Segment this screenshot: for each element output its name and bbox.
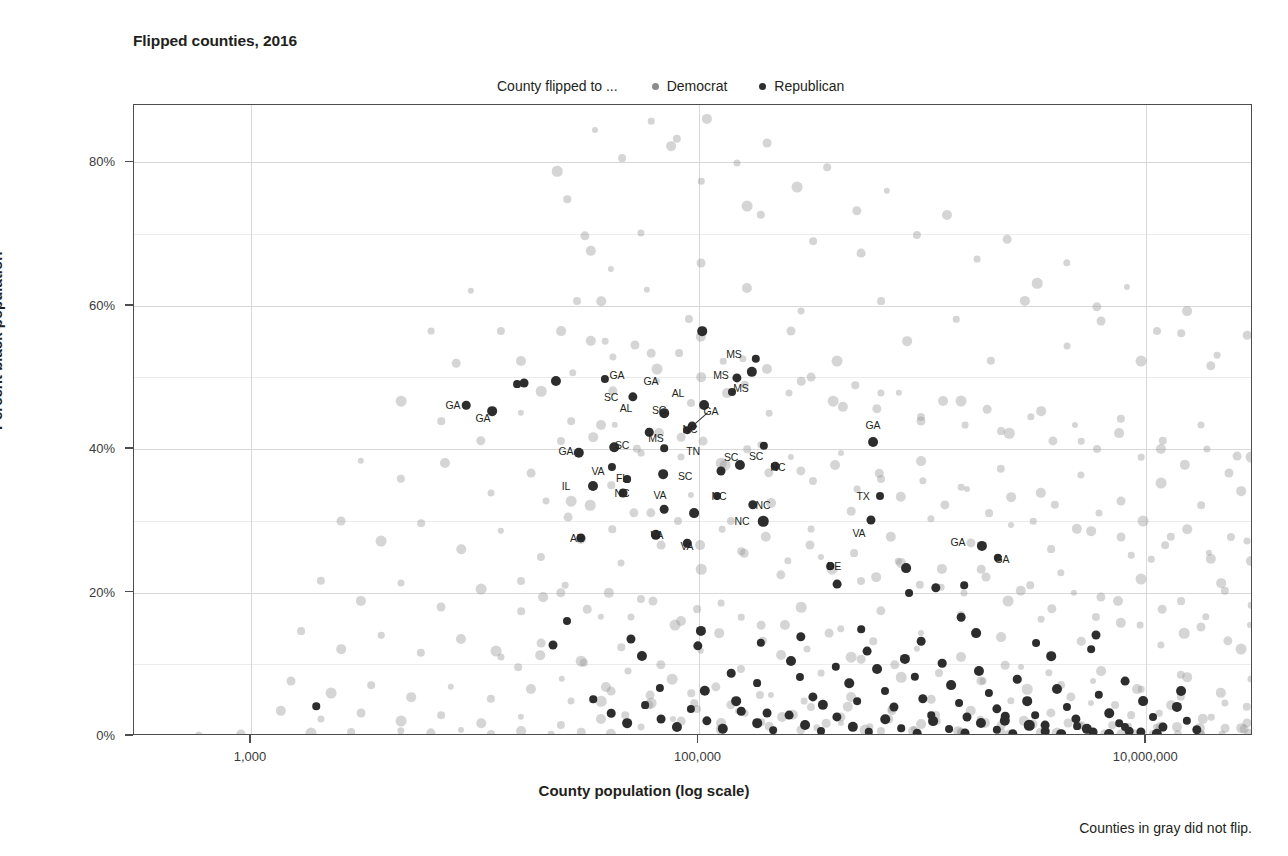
data-point	[678, 454, 685, 461]
data-point	[1172, 702, 1182, 712]
data-point	[644, 287, 650, 293]
legend-entry-republican[interactable]: Republican	[759, 78, 844, 94]
point-label-va: VA	[853, 527, 866, 539]
data-point	[780, 620, 790, 630]
y-tick-label: 0%	[63, 728, 115, 743]
data-point	[1137, 622, 1144, 629]
data-point	[1156, 444, 1166, 454]
data-point	[1038, 616, 1045, 623]
data-point	[1003, 235, 1012, 244]
data-point	[1072, 422, 1078, 428]
data-point	[1156, 478, 1167, 489]
data-point	[963, 713, 972, 722]
data-point	[702, 716, 711, 725]
data-point	[1182, 306, 1192, 316]
y-tick-label: 80%	[63, 154, 115, 169]
data-point	[517, 577, 525, 585]
data-point	[627, 613, 634, 620]
data-point	[497, 327, 505, 335]
data-point	[844, 678, 854, 688]
data-point	[937, 564, 947, 574]
data-point	[1152, 729, 1162, 734]
data-point	[1244, 729, 1251, 734]
data-point	[586, 336, 596, 346]
data-point	[563, 195, 571, 203]
data-point	[1243, 331, 1251, 340]
data-point	[852, 206, 861, 215]
point-label-ms: MS	[713, 369, 728, 381]
data-point	[756, 691, 764, 699]
data-point	[1182, 672, 1192, 682]
point-label-fl: FL	[616, 472, 628, 484]
legend-entry-democrat[interactable]: Democrat	[652, 78, 728, 94]
data-point	[1066, 692, 1075, 701]
data-point	[456, 634, 466, 644]
data-point	[902, 336, 912, 346]
data-point	[1246, 556, 1251, 566]
data-point	[488, 490, 495, 497]
data-point	[846, 652, 857, 663]
data-point	[440, 458, 450, 468]
data-point	[685, 315, 693, 323]
data-point	[596, 420, 606, 430]
plot-canvas: GAGASCGAGAALALSCGAMSMSMSNCTNMSSCGASCSCNC…	[134, 105, 1251, 734]
data-point	[796, 673, 804, 681]
data-point	[559, 676, 565, 682]
data-point	[580, 231, 589, 240]
data-point	[606, 729, 616, 734]
data-point	[562, 582, 569, 589]
point-label-sc: SC	[678, 470, 692, 482]
gridline-horizontal-minor	[134, 234, 1251, 235]
data-point	[674, 517, 682, 525]
data-point	[1114, 428, 1124, 438]
data-point	[766, 410, 773, 417]
data-point	[1243, 537, 1250, 544]
data-point	[792, 182, 803, 193]
data-point	[785, 711, 794, 720]
data-point	[556, 588, 565, 597]
data-point	[437, 603, 446, 612]
point-label-va: VA	[651, 529, 664, 541]
gridline-horizontal-minor	[134, 377, 1251, 378]
data-point	[1036, 488, 1046, 498]
data-point	[927, 695, 936, 704]
data-point	[699, 437, 708, 446]
data-point	[971, 628, 981, 638]
data-point	[517, 607, 525, 615]
data-point	[1064, 343, 1071, 350]
data-point	[476, 584, 487, 595]
data-point	[928, 716, 938, 726]
data-point	[837, 625, 844, 632]
data-point	[1136, 574, 1147, 585]
data-point	[838, 402, 848, 412]
data-point	[417, 649, 425, 657]
data-point	[900, 654, 910, 664]
data-point	[317, 715, 324, 722]
data-point	[786, 326, 795, 335]
data-point	[1177, 597, 1185, 605]
data-point	[1236, 486, 1246, 496]
gridline-vertical	[1146, 105, 1147, 734]
data-point	[987, 357, 995, 365]
data-point	[890, 660, 899, 669]
data-point	[889, 702, 898, 711]
data-point	[796, 602, 807, 613]
data-point	[1124, 284, 1130, 290]
data-point	[761, 532, 771, 542]
data-point	[850, 549, 858, 557]
data-point	[476, 436, 485, 445]
point-label-ms: MS	[726, 348, 741, 360]
data-point	[847, 507, 856, 516]
data-point	[876, 606, 885, 615]
data-point	[1027, 413, 1034, 420]
data-point	[877, 389, 884, 396]
data-point	[776, 570, 785, 579]
data-point	[666, 141, 676, 151]
point-label-ms: MS	[648, 432, 663, 444]
data-point	[738, 614, 745, 621]
data-point	[1095, 691, 1103, 699]
data-point	[776, 650, 786, 660]
data-point	[763, 709, 772, 718]
data-point	[696, 564, 707, 575]
data-point	[1177, 329, 1185, 337]
